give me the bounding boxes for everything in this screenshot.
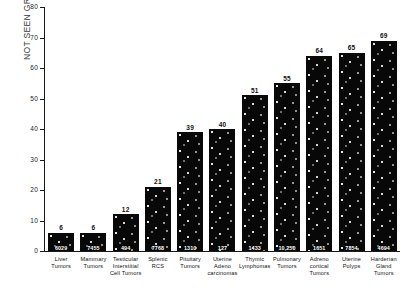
bar-denominator-label: 7455 [87,245,99,251]
bar-value-label: 64 [315,47,323,54]
bar-denominator-label: 7854 [345,245,357,251]
category-label-line: Uterine [206,256,238,263]
bar: 7768 [145,187,171,251]
y-axis-tick-label: 30 [0,156,38,163]
bar: 1651 [306,56,332,251]
bar-group: 40127 [207,7,237,251]
bar: 6029 [48,233,74,251]
y-axis-tick [40,68,44,69]
bar: 4694 [371,41,397,251]
y-axis-tick-label: 20 [0,186,38,193]
bar-group: 694694 [369,7,399,251]
category-label-line: Thymic [239,256,271,263]
category-label-line: Pituitary [174,256,206,263]
category-label-line: Adeno [206,263,238,270]
category-label-line: Tumors [45,263,77,270]
bar-denominator-label: 494 [121,245,130,251]
category-label-line: Harderian [368,256,400,263]
bar: 10,250 [274,83,300,251]
bar-group: 391310 [175,7,205,251]
plot-area: 6602967455124942177683913104012751143355… [45,7,400,251]
bar-denominator-label: 6029 [55,245,67,251]
bar-value-label: 55 [283,75,291,82]
category-label-line: Lymphomas [239,263,271,270]
category-label-line: Gland [368,263,400,270]
category-label-line: cortical [303,263,335,270]
bar-value-label: 21 [154,178,162,185]
y-axis-tick [40,99,44,100]
category-label-line: Pulmonary [271,256,303,263]
x-axis-category-labels: LiverTumorsMammaryTumorsTesticularInters… [45,256,400,306]
category-label-line: Tumors [271,263,303,270]
bar-denominator-label: 10,250 [278,245,295,251]
y-axis-tick [40,160,44,161]
bar-group: 641651 [304,7,334,251]
bar-value-label: 69 [380,32,388,39]
x-axis-line [44,251,400,252]
category-label-line: Mammary [77,256,109,263]
category-label: UterinePolyps [335,256,367,270]
y-axis-tick-label: 80 [0,3,38,10]
bar-group: 5510,250 [272,7,302,251]
bar-value-label: 51 [251,87,259,94]
y-axis-tick [40,221,44,222]
bar-value-label: 6 [59,224,63,231]
y-axis-tick-label: 60 [0,64,38,71]
bar-denominator-label: 1310 [184,245,196,251]
bar: 494 [113,214,139,251]
category-label-line: Liver [45,256,77,263]
bar: 7455 [80,233,106,251]
y-axis-tick [40,129,44,130]
bar-group: 12494 [111,7,141,251]
y-axis-tick-label: 40 [0,125,38,132]
y-axis-tick [40,190,44,191]
bar: 1310 [177,132,203,251]
category-label: AdrenocorticalTumors [303,256,335,278]
y-axis-tick [40,251,44,252]
category-label-line: Tumors [303,270,335,277]
y-axis-tick [40,7,44,8]
bar: 127 [209,129,235,251]
bar-denominator-label: 1433 [249,245,261,251]
category-label-line: Uterine [335,256,367,263]
y-axis-tick-label: 0 [0,247,38,254]
category-label: SplenicRCS [142,256,174,270]
bar-value-label: 6 [91,224,95,231]
category-label-line: RCS [142,263,174,270]
category-label: HarderianGlandTumors [368,256,400,278]
y-axis-tick-label: 70 [0,34,38,41]
category-label-line: Tumors [368,270,400,277]
bar-chart: NOT SEEN GROSSLY Percent 010203040506070… [0,0,408,306]
category-label: TesticularInterstitialCell Tumors [110,256,142,278]
category-label: PituitaryTumors [174,256,206,270]
category-label: PulmonaryTumors [271,256,303,270]
y-axis-tick-label: 50 [0,95,38,102]
bar-group: 217768 [143,7,173,251]
category-label: LiverTumors [45,256,77,270]
y-axis-tick [40,38,44,39]
bar: 1433 [242,95,268,251]
category-label: MammaryTumors [77,256,109,270]
category-label: UterineAdenocarcinomas [206,256,238,278]
bar-denominator-label: 1651 [313,245,325,251]
bar-denominator-label: 4694 [378,245,390,251]
category-label: ThymicLymphomas [239,256,271,270]
bar: 7854 [339,53,365,251]
category-label-line: Cell Tumors [110,270,142,277]
bar-group: 67455 [78,7,108,251]
bar-group: 511433 [240,7,270,251]
category-label-line: Adreno [303,256,335,263]
bar-value-label: 12 [122,206,130,213]
category-label-line: Tumors [77,263,109,270]
category-label-line: carcinomas [206,270,238,277]
bar-denominator-label: 7768 [152,245,164,251]
bar-value-label: 39 [186,124,194,131]
category-label-line: Interstitial [110,263,142,270]
bar-value-label: 40 [219,121,227,128]
category-label-line: Testicular [110,256,142,263]
bar-group: 66029 [46,7,76,251]
y-axis-tick-label: 10 [0,217,38,224]
bar-group: 657854 [337,7,367,251]
bar-value-label: 65 [348,44,356,51]
bar-denominator-label: 127 [218,245,227,251]
